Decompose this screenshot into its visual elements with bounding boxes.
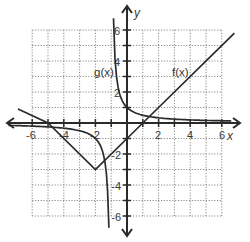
f-of-x-label: f(x)	[172, 66, 189, 78]
x-tick-label: -6	[26, 129, 36, 141]
function-graph: -6 -4 -2 2 4 6 6 4 2 -2 -4 -6 x y g(x) f…	[0, 0, 250, 242]
y-axis-label: y	[133, 6, 141, 20]
x-axis-label: x	[226, 129, 234, 143]
y-tick-label: -6	[111, 211, 121, 223]
y-tick-label: -2	[111, 149, 121, 161]
y-axis	[122, 6, 132, 236]
g-of-x-label: g(x)	[94, 66, 114, 78]
y-tick-label: -4	[111, 180, 121, 192]
x-tick-label: 6	[219, 129, 225, 141]
x-tick-label: 4	[187, 129, 193, 141]
x-tick-label: 2	[155, 129, 161, 141]
